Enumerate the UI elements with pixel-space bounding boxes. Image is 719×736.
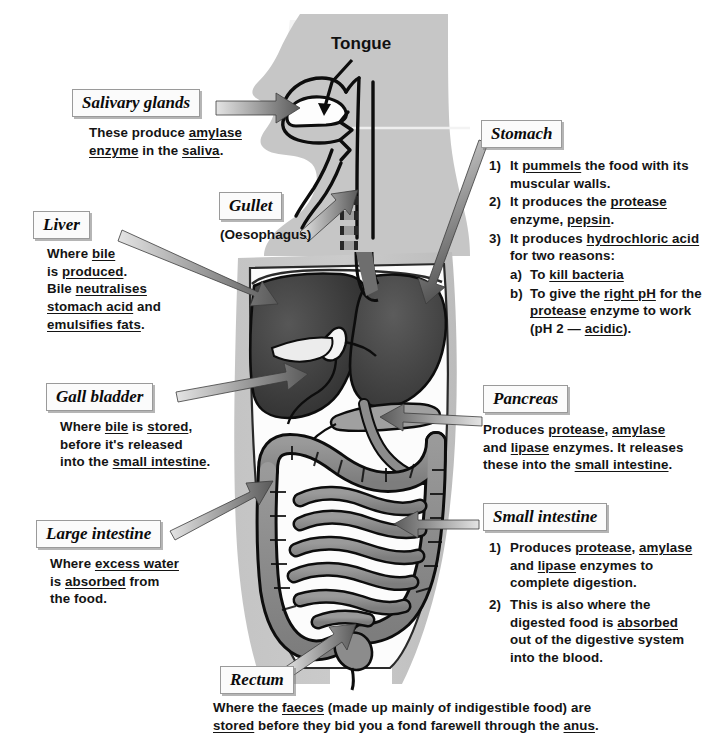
stb-l1u: right pH: [604, 286, 656, 301]
stomach-sub-b: b) To give the right pH for the protease…: [510, 285, 715, 338]
lv-l2a: is: [47, 264, 62, 279]
rc-l2u2: anus: [564, 718, 595, 733]
gb-l1u2: stored: [147, 419, 188, 434]
pa-l1a: Produces: [483, 422, 548, 437]
si-num-1: 1): [489, 539, 504, 592]
label-rectum[interactable]: Rectum: [220, 666, 294, 694]
st2-l2b: .: [610, 212, 614, 227]
sg-l1u: amylase: [189, 125, 242, 140]
text-stomach: 1) It pummels the food with its muscular…: [489, 157, 715, 340]
lv-l1a: Where: [47, 246, 92, 261]
si2-l1: This is also where the: [510, 596, 717, 614]
lv-l2b: .: [123, 264, 127, 279]
li-l3: the food.: [50, 590, 230, 608]
stomach-item-2: 2) It produces the protease enzyme, peps…: [489, 193, 715, 228]
stomach-sub-num-b: b): [510, 285, 524, 338]
stomach-item-3: 3) It produces hydrochloric acid for two…: [489, 230, 715, 339]
si2-l3: out of the digestive system: [510, 631, 717, 649]
st3-l1a: It produces: [510, 231, 587, 246]
stomach-num-2: 2): [489, 193, 504, 228]
si1-l1b: ,: [631, 540, 639, 555]
label-small-intestine[interactable]: Small intestine: [483, 503, 607, 531]
stomach-sub-a: a) To kill bacteria: [510, 266, 715, 284]
stomach-item-1: 1) It pummels the food with its muscular…: [489, 157, 715, 192]
li-l2u: absorbed: [65, 574, 126, 589]
pa-l3a: these into the: [483, 457, 575, 472]
rc-l1u: faeces: [282, 700, 324, 715]
pa-l2a: and: [483, 440, 511, 455]
stomach-num-1: 1): [489, 157, 504, 192]
small-intestine-item-2: 2) This is also where the digested food …: [489, 596, 717, 667]
text-small-intestine: 1) Produces protease, amylase and lipase…: [489, 539, 717, 668]
st2-l1a: It produces the: [510, 194, 611, 209]
pa-l1b: ,: [604, 422, 612, 437]
pa-l1u2: amylase: [612, 422, 665, 437]
st3-l2: for two reasons:: [510, 247, 715, 265]
rc-l2u1: stored: [213, 718, 254, 733]
rc-l2b: .: [595, 718, 599, 733]
si1-l2a: and: [510, 558, 538, 573]
li-l1a: Where: [50, 556, 95, 571]
text-gall-bladder: Where bile is stored, before it's releas…: [60, 418, 250, 471]
text-liver: Where bile is produced. Bile neutralises…: [47, 245, 207, 333]
si-num-2: 2): [489, 596, 504, 667]
sg-l1a: These produce: [89, 125, 189, 140]
si2-l2u: absorbed: [617, 615, 678, 630]
si1-l2b: enzymes to: [576, 558, 653, 573]
small-intestine-item-1: 1) Produces protease, amylase and lipase…: [489, 539, 717, 592]
text-salivary-glands: These produce amylase enzyme in the sali…: [89, 124, 299, 159]
stb-l2u: protease: [530, 303, 586, 318]
ghost-text-top: [330, 52, 334, 70]
label-gall-bladder[interactable]: Gall bladder: [46, 383, 153, 411]
label-gullet[interactable]: Gullet: [219, 192, 282, 220]
sg-l2b: .: [220, 143, 224, 158]
gb-l2: before it's released: [60, 436, 250, 454]
anal-canal: [352, 668, 354, 690]
text-large-intestine: Where excess water is absorbed from the …: [50, 555, 230, 608]
label-pancreas[interactable]: Pancreas: [483, 385, 568, 413]
label-stomach[interactable]: Stomach: [481, 120, 562, 148]
si2-l2a: digested food is: [510, 615, 617, 630]
sta-l1a: To: [530, 267, 549, 282]
si1-l1u2: amylase: [639, 540, 692, 555]
text-rectum: Where the faeces (made up mainly of indi…: [213, 699, 713, 734]
si2-l4: into the blood.: [510, 649, 717, 667]
sg-l2a: in the: [138, 143, 182, 158]
gb-l3u: small intestine: [113, 454, 207, 469]
rc-l2a: before they bid you a fond farewell thro…: [254, 718, 563, 733]
label-liver[interactable]: Liver: [33, 211, 90, 239]
stb-l2a: enzyme to work: [586, 303, 691, 318]
rc-l1a: Where the: [213, 700, 282, 715]
st1-l2: muscular walls.: [510, 175, 715, 193]
si1-l2u: lipase: [538, 558, 576, 573]
label-salivary-glands[interactable]: Salivary glands: [72, 89, 200, 117]
st1-l1b: the food with its: [581, 158, 688, 173]
st1-l1u: pummels: [522, 158, 581, 173]
si1-l3: complete digestion.: [510, 574, 717, 592]
label-tongue: Tongue: [331, 34, 391, 54]
st3-l1u: hydrochloric acid: [587, 231, 700, 246]
text-pancreas: Produces protease, amylase and lipase en…: [483, 421, 715, 474]
label-large-intestine[interactable]: Large intestine: [36, 520, 161, 548]
stomach-num-3: 3): [489, 230, 504, 339]
li-l2b: from: [126, 574, 160, 589]
stb-l3a: (pH 2 —: [530, 321, 585, 336]
pa-l2b: enzymes. It releases: [549, 440, 683, 455]
digestive-system-page: Tongue Salivary glands These produce amy…: [0, 0, 719, 736]
pa-l1u1: protease: [548, 422, 604, 437]
si1-l1a: Produces: [510, 540, 575, 555]
lv-l2u: produced: [62, 264, 123, 279]
lv-l4a: and: [133, 299, 161, 314]
gb-l1b: is: [128, 419, 147, 434]
gb-l1u1: bile: [105, 419, 128, 434]
li-l1u: excess water: [95, 556, 179, 571]
sta-l1u: kill bacteria: [549, 267, 623, 282]
lv-l1u: bile: [92, 246, 115, 261]
sg-l2u2: saliva: [182, 143, 220, 158]
st2-l1u: protease: [611, 194, 667, 209]
stomach-sub-num-a: a): [510, 266, 524, 284]
sg-l2u1: enzyme: [89, 143, 138, 158]
lv-l3u: neutralises: [76, 281, 147, 296]
rc-l1b: (made up mainly of indigestible food) ar…: [324, 700, 591, 715]
pa-l3b: .: [669, 457, 673, 472]
